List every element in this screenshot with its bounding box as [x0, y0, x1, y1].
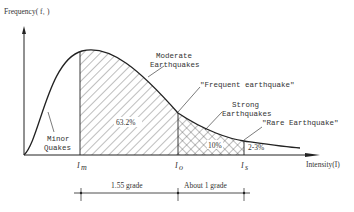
minor-label-line2: Quakes	[44, 144, 71, 152]
svg-text:I: I	[76, 161, 80, 170]
moderate-label-line1: Moderate	[156, 52, 192, 60]
x-axis-arrow-icon	[305, 153, 320, 157]
strong-label-line1: Strong	[232, 101, 259, 109]
dimension-second-label: About 1 grade	[184, 181, 228, 190]
y-axis-label: Frequency( f₁ )	[4, 7, 50, 16]
minor-label-line1: Minor	[47, 135, 70, 143]
y-axis-arrow-icon	[22, 26, 26, 34]
x-mark-is: I s	[240, 161, 248, 172]
rare-annotation: "Rare Earthquake"	[262, 119, 339, 127]
svg-text:o: o	[179, 163, 183, 172]
svg-text:I: I	[174, 161, 178, 170]
earthquake-intensity-diagram: Frequency( f₁ ) Intensity(I) I m I o I s…	[0, 0, 354, 212]
strong-leader-line	[205, 112, 222, 130]
dimension-first-label: 1.55 grade	[111, 181, 143, 190]
moderate-label-line2: Earthquakes	[150, 61, 200, 69]
rare-percent: 2-3%	[248, 143, 264, 152]
minor-leader-line	[48, 112, 54, 132]
x-mark-im: I m	[76, 161, 87, 172]
strong-label-line2: Earthquakes	[222, 110, 272, 118]
frequent-leader-line	[178, 87, 200, 112]
x-mark-io: I o	[174, 161, 183, 172]
moderate-percent: 63.2%	[116, 118, 135, 127]
x-axis-label: Intensity(I)	[306, 160, 340, 169]
svg-text:m: m	[81, 163, 87, 172]
svg-text:I: I	[240, 161, 244, 170]
frequent-annotation: "Frequent earthquake"	[200, 81, 295, 89]
rare-leader-line	[244, 127, 262, 140]
strong-percent: 10%	[208, 141, 222, 150]
svg-text:s: s	[245, 163, 248, 172]
